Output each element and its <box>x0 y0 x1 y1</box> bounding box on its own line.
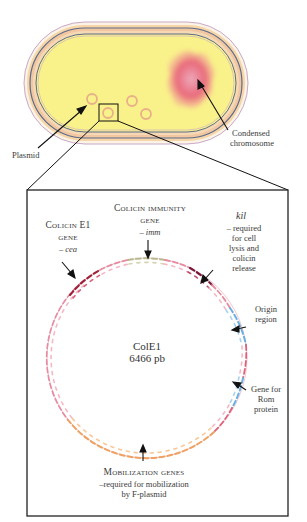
kil-symbol: kil <box>215 211 267 221</box>
plasmid-name: ColE1 <box>107 340 187 352</box>
bacterial-cell <box>24 22 248 144</box>
chromosome-label-line1: Condensed <box>232 128 270 138</box>
chromosome-label-line2: chromosome <box>230 138 274 148</box>
plasmid-size: 6466 pb <box>107 352 187 364</box>
rom-desc-2: Rom <box>244 394 288 404</box>
kil-desc-4: colicin <box>215 253 273 263</box>
colicin-plasmid-diagram: Plasmid Condensed chromosome Colicin E1 … <box>0 0 307 522</box>
mob-desc-2: by F-plasmid <box>60 489 228 499</box>
plasmid-label: Plasmid <box>12 150 39 160</box>
kil-desc-2: for cell <box>215 233 273 243</box>
kil-desc-5: release <box>215 263 273 273</box>
cea-symbol: – cea <box>38 244 98 254</box>
imm-title-line1: Colicin immunity <box>100 203 200 213</box>
kil-desc-3: lysis and <box>215 243 273 253</box>
kil-desc-1: – required <box>215 223 273 233</box>
imm-symbol: – imm <box>100 227 200 237</box>
rom-desc-1: Gene for <box>244 384 288 394</box>
imm-title-line2: gene <box>100 215 200 225</box>
cea-title-line1: Colicin E1 <box>38 220 98 230</box>
mob-desc-1: –required for mobilization <box>60 479 228 489</box>
mob-title: Mobilization genes <box>60 467 228 477</box>
origin-desc-1: Origin <box>246 304 286 314</box>
rom-desc-3: protein <box>244 404 288 414</box>
cea-title-line2: gene <box>38 232 98 242</box>
origin-desc-2: region <box>246 314 286 324</box>
